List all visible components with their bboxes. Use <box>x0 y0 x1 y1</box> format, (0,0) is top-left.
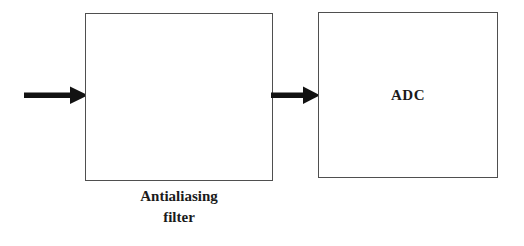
caption-antialiasing-filter: Antialiasing filter <box>85 186 273 228</box>
block-adc: ADC <box>318 12 498 178</box>
caption-line-1: Antialiasing <box>85 186 273 207</box>
caption-line-2: filter <box>85 207 273 228</box>
block-adc-label: ADC <box>319 87 497 104</box>
input-arrow-icon <box>24 80 88 110</box>
block-antialiasing-filter <box>85 13 273 181</box>
filter-to-adc-arrow-icon <box>271 80 320 110</box>
block-diagram-canvas: Antialiasing filter ADC <box>0 0 524 246</box>
